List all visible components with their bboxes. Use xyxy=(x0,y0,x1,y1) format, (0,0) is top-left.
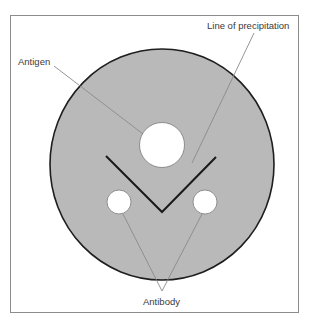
antibody-well-right xyxy=(193,190,217,214)
antibody-well-left xyxy=(107,190,131,214)
immunodiffusion-diagram xyxy=(0,0,311,326)
line-of-precipitation-label: Line of precipitation xyxy=(207,20,289,31)
antigen-label: Antigen xyxy=(18,56,50,67)
antibody-label: Antibody xyxy=(143,296,180,307)
antigen-well xyxy=(140,123,185,168)
